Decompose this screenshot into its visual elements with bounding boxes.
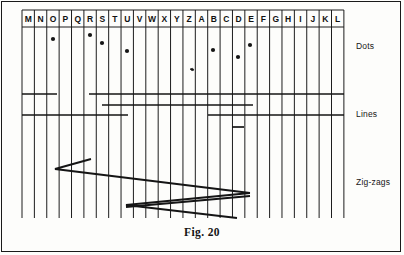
- tick-mark-Z: [190, 68, 194, 71]
- column-letter-Z: Z: [183, 13, 195, 25]
- dot-point-E: [248, 43, 252, 47]
- column-letter-P: P: [59, 13, 71, 25]
- row-label-zigzags: Zig-zags: [356, 177, 390, 187]
- dot-point-O: [51, 37, 55, 41]
- row-label-lines: Lines: [356, 109, 377, 119]
- column-letter-T: T: [109, 13, 121, 25]
- column-letter-W: W: [146, 13, 158, 25]
- column-letter-X: X: [158, 13, 170, 25]
- column-letter-U: U: [121, 13, 133, 25]
- grid-vertical-lines: [22, 10, 344, 218]
- dot-point-S: [100, 41, 104, 45]
- column-letter-V: V: [133, 13, 145, 25]
- dot-point-D: [236, 55, 240, 59]
- dots-series: [51, 33, 252, 59]
- column-letter-H: H: [282, 13, 294, 25]
- column-letter-N: N: [34, 13, 46, 25]
- dot-point-T: [125, 49, 129, 53]
- column-letter-C: C: [220, 13, 232, 25]
- column-letter-Q: Q: [72, 13, 84, 25]
- column-letter-Y: Y: [171, 13, 183, 25]
- figure-plot-area: [0, 0, 404, 255]
- column-letter-R: R: [84, 13, 96, 25]
- dot-point-B: [211, 48, 215, 52]
- dot-point-R: [88, 33, 92, 37]
- column-letter-O: O: [47, 13, 59, 25]
- column-letter-J: J: [307, 13, 319, 25]
- column-letter-I: I: [294, 13, 306, 25]
- column-letter-K: K: [319, 13, 331, 25]
- column-letter-A: A: [195, 13, 207, 25]
- column-letter-L: L: [332, 13, 344, 25]
- tick-marks-series: [190, 68, 194, 71]
- column-letter-S: S: [96, 13, 108, 25]
- column-letter-D: D: [232, 13, 244, 25]
- row-label-dots: Dots: [356, 41, 374, 51]
- figure-caption: Fig. 20: [0, 226, 404, 238]
- column-letter-E: E: [245, 13, 257, 25]
- zigzag-tail: [126, 196, 250, 207]
- column-letter-F: F: [257, 13, 269, 25]
- column-letter-B: B: [208, 13, 220, 25]
- figure-20-container: MNOPQRSTUVWXYZABCDEFGHIJKL DotsLinesZig-…: [0, 0, 404, 255]
- column-letter-G: G: [270, 13, 282, 25]
- column-letter-M: M: [22, 13, 34, 25]
